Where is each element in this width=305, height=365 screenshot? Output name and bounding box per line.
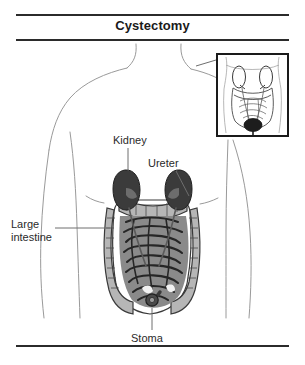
leader-inset: [196, 60, 216, 66]
label-stoma: Stoma: [131, 332, 163, 345]
kidney-left: [113, 170, 140, 210]
label-kidney: Kidney: [113, 134, 147, 147]
label-large-intestine: Large intestine: [11, 218, 52, 243]
inset-panel: [216, 53, 289, 137]
inset-bladder: [244, 119, 262, 136]
bottom-rule: [16, 345, 289, 347]
label-ureter: Ureter: [148, 157, 179, 170]
inset-illustration: [218, 55, 287, 135]
cystectomy-figure: Cystectomy: [0, 0, 305, 365]
stoma: [146, 294, 158, 306]
